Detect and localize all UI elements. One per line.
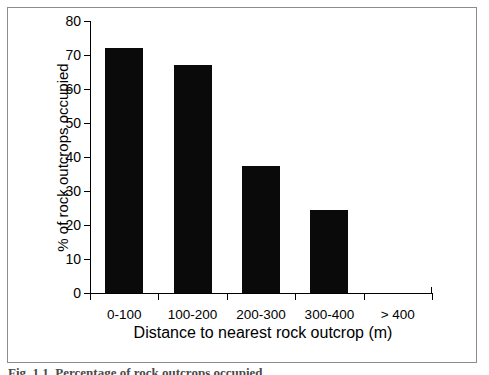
y-axis-tick-mark — [84, 123, 90, 124]
plot-area: 01020304050607080 0-100100-200200-300300… — [90, 21, 436, 293]
x-axis-title: Distance to nearest rock outcrop (m) — [90, 324, 436, 342]
y-axis-tick-mark — [84, 157, 90, 158]
x-axis-tick-mark — [158, 293, 159, 300]
bar — [242, 166, 280, 294]
x-axis-tick-mark — [432, 293, 433, 300]
x-axis-line — [90, 293, 432, 294]
y-axis-tick-mark — [84, 191, 90, 192]
x-axis-tick-label: > 400 — [381, 308, 415, 322]
bar — [105, 48, 143, 293]
x-axis-tick-mark — [295, 293, 296, 300]
x-axis-tick-label: 100-200 — [168, 308, 218, 322]
y-axis-tick-mark — [84, 259, 90, 260]
y-axis-tick-label: 0 — [73, 286, 81, 300]
figure-frame: 01020304050607080 0-100100-200200-300300… — [7, 7, 477, 363]
y-axis-title-text: % of rock outcrops occupied — [54, 63, 71, 251]
x-axis-tick-mark — [227, 293, 228, 300]
x-axis-tick-label: 200-300 — [236, 308, 286, 322]
bar — [310, 210, 348, 293]
bar — [174, 65, 212, 293]
figure-caption: Fig. 1.1. Percentage of rock outcrops oc… — [8, 366, 478, 375]
x-axis-tick-mark — [90, 293, 91, 300]
x-axis-tick-label: 0-100 — [107, 308, 142, 322]
y-axis-tick-mark — [84, 21, 90, 22]
y-axis-tick-mark — [84, 225, 90, 226]
y-axis-title: % of rock outcrops occupied — [52, 21, 72, 293]
y-axis-tick-mark — [84, 55, 90, 56]
x-axis-tick-mark — [364, 293, 365, 300]
y-axis-tick-mark — [84, 89, 90, 90]
x-axis-tick-label: 300-400 — [305, 308, 355, 322]
y-axis-line — [90, 21, 91, 293]
